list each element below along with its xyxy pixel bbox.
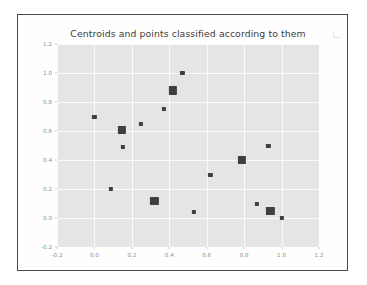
data-point-marker: [162, 107, 166, 111]
x-tick-mark: [131, 247, 132, 249]
y-tick-label: -0.2: [41, 244, 52, 250]
x-tick-mark: [94, 247, 95, 249]
gridline-vertical: [94, 44, 95, 247]
scatter-plot-area: [57, 44, 319, 247]
y-tick-mark: [55, 73, 57, 74]
centroid-marker: [169, 86, 177, 94]
x-tick-label: 1.2: [315, 252, 324, 258]
data-point-marker: [139, 122, 143, 126]
figure-window-frame: Centroids and points classified accordin…: [17, 14, 348, 271]
y-tick-mark: [55, 44, 57, 45]
centroid-marker: [117, 125, 125, 133]
y-tick-label: 0.8: [43, 99, 52, 105]
x-tick-label: 1.0: [277, 252, 286, 258]
x-tick-label: -0.2: [52, 252, 63, 258]
centroid-marker: [150, 197, 158, 205]
data-point-marker: [279, 216, 283, 220]
gridline-vertical: [57, 44, 58, 247]
data-point-marker: [208, 172, 212, 176]
gridline-horizontal: [57, 160, 319, 161]
y-tick-mark: [55, 131, 57, 132]
gridline-vertical: [244, 44, 245, 247]
x-tick-label: 0.0: [90, 252, 99, 258]
gridline-horizontal: [57, 44, 319, 45]
y-tick-label: 0.4: [43, 157, 52, 163]
x-tick-mark: [169, 247, 170, 249]
gridline-horizontal: [57, 131, 319, 132]
x-tick-mark: [319, 247, 320, 249]
gridline-horizontal: [57, 73, 319, 74]
screenshot-root: Centroids and points classified accordin…: [0, 0, 367, 285]
gridline-vertical: [132, 44, 133, 247]
y-tick-mark: [55, 102, 57, 103]
data-point-marker: [109, 187, 113, 191]
data-point-marker: [92, 114, 96, 118]
x-tick-label: 0.8: [240, 252, 249, 258]
y-tick-mark: [55, 160, 57, 161]
x-tick-label: 0.2: [127, 252, 136, 258]
data-point-marker: [255, 201, 259, 205]
y-tick-label: 1.2: [43, 41, 52, 47]
y-tick-label: 0.0: [43, 215, 52, 221]
y-tick-mark: [55, 218, 57, 219]
chart-title: Centroids and points classified accordin…: [57, 28, 319, 39]
x-tick-mark: [244, 247, 245, 249]
centroid-marker: [266, 207, 274, 215]
data-point-marker: [120, 145, 124, 149]
gridline-horizontal: [57, 102, 319, 103]
gridline-horizontal: [57, 189, 319, 190]
data-point-marker: [180, 71, 184, 75]
y-tick-label: 1.0: [43, 70, 52, 76]
data-point-marker: [192, 210, 196, 214]
figure-canvas: Centroids and points classified accordin…: [18, 15, 347, 270]
y-tick-label: 0.2: [43, 186, 52, 192]
y-tick-label: 0.6: [43, 128, 52, 134]
top-right-axis-artifact: [333, 32, 341, 38]
gridline-vertical: [169, 44, 170, 247]
x-tick-label: 0.4: [165, 252, 174, 258]
x-tick-mark: [281, 247, 282, 249]
x-tick-mark: [206, 247, 207, 249]
gridline-vertical: [207, 44, 208, 247]
x-tick-label: 0.6: [202, 252, 211, 258]
y-tick-mark: [55, 189, 57, 190]
data-point-marker: [266, 143, 270, 147]
centroid-marker: [238, 156, 246, 164]
x-tick-mark: [57, 247, 58, 249]
